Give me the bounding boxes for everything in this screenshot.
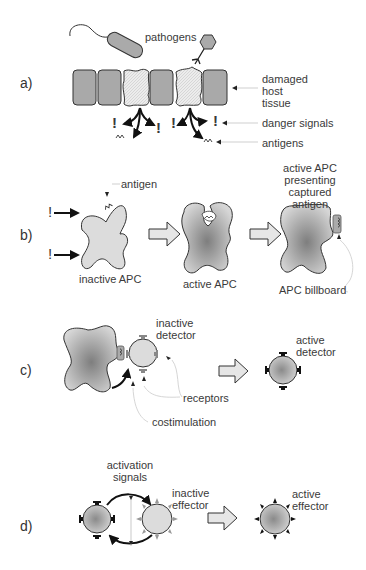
apc-billboard-icon [333,215,341,233]
transition-arrow [208,506,237,530]
active-apc-label: active APC [183,278,237,290]
active-detector-label-1: active [296,334,325,346]
damaged-host-tissue-label-2: host [262,85,283,97]
apc-shape [64,326,119,392]
transition-arrow [149,222,180,246]
damaged-host-tissue-label-1: damaged [262,73,308,85]
inactive-detector-cell [129,339,157,367]
activation-signals-label-1: activation [100,459,160,471]
activation-signals-label-2: signals [100,471,160,483]
transition-arrow [219,359,248,383]
apc-billboard-label: APC billboard [279,284,346,296]
antigen-icon [204,139,212,142]
danger-signal-icon: ! [112,117,117,129]
antigen-icon [116,135,124,138]
inactive-detector-label-1: inactive [156,317,193,329]
presenting-apc-label-4: antigen [275,198,345,210]
transition-arrow [250,222,281,246]
active-effector-label-1: active [292,488,321,500]
active-effector-label-2: effector [292,500,329,512]
panel-a-marker: a) [20,75,32,91]
inactive-detector-label-2: detector [156,329,196,341]
active-detector-cell [83,505,111,533]
inactive-apc-label: inactive APC [79,273,141,285]
damaged-host-tissue-label-3: tissue [262,97,291,109]
inactive-apc-shape [81,206,127,269]
active-detector-label-2: detector [296,346,336,358]
panel-c-marker: c) [20,362,32,378]
panel-b-marker: b) [20,227,32,243]
pathogens-label: pathogens [145,31,196,43]
bacterium-icon [70,25,145,60]
danger-signals-label: danger signals [262,117,334,129]
presenting-apc-shape [281,204,333,273]
danger-signal-icon: ! [48,206,52,218]
costimulation-label: costimulation [152,416,216,428]
inactive-effector-label-1: inactive [172,487,209,499]
receptors-label: receptors [183,392,229,404]
danger-signal-icon: ! [48,248,52,260]
antigens-label: antigens [262,137,304,149]
presenting-apc-label-2: presenting [275,174,345,186]
active-effector-cell [254,498,296,540]
inactive-effector-label-2: effector [172,499,209,511]
danger-signal-icon: ! [171,117,176,129]
presenting-apc-label-1: active APC [275,162,345,174]
presenting-apc-label-3: captured [275,186,345,198]
antigen-label: antigen [121,178,157,190]
host-tissue [73,67,227,106]
antigen-icon [104,203,112,210]
active-detector-cell [269,356,297,384]
danger-signal-icon: ! [213,115,218,127]
danger-signal-icon: ! [156,122,161,134]
panel-d-marker: d) [20,518,32,534]
danger-signal-arrows [124,108,206,138]
